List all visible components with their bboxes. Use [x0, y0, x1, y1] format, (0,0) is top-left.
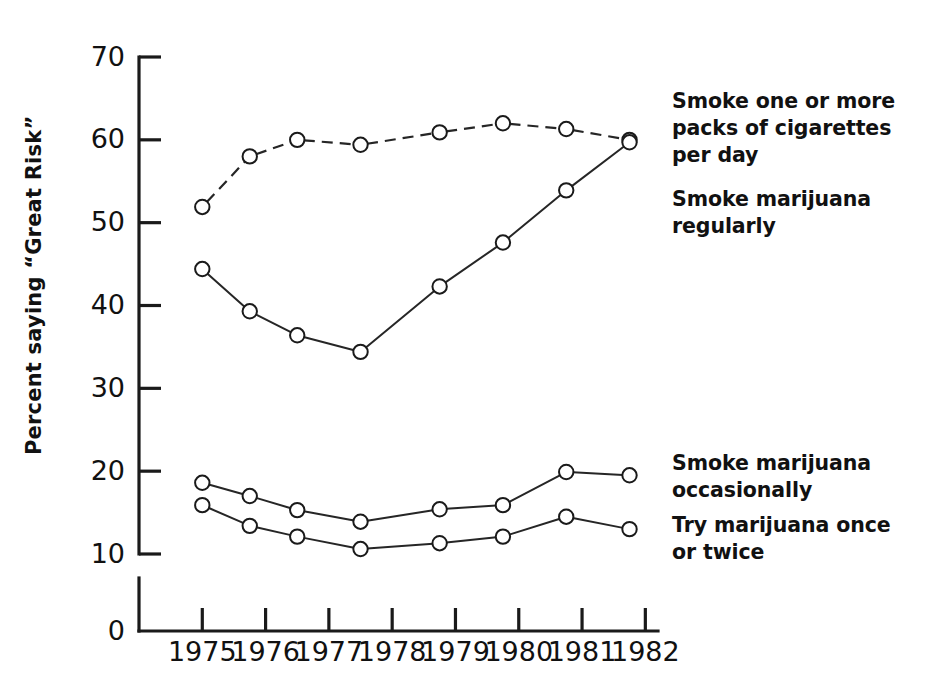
series-segment [367, 544, 433, 549]
series-segment [508, 195, 561, 239]
series-segment [256, 527, 291, 535]
y-axis-tick-label: 30 [91, 372, 125, 403]
series-segment [304, 511, 354, 520]
y-axis-tick-label: 10 [91, 538, 125, 569]
series-segment [256, 142, 291, 154]
x-axis-ticks: 19751976197719781979198019811982 [168, 608, 680, 667]
series-segment [367, 510, 433, 520]
data-point-marker [195, 262, 209, 276]
data-point-marker [243, 489, 257, 503]
data-point-marker [243, 149, 257, 163]
series-segment [573, 130, 623, 139]
legend-label-cigarettes: Smoke one or more packs of cigarettes pe… [672, 88, 922, 169]
data-point-marker [559, 465, 573, 479]
data-point-marker [432, 536, 446, 550]
series-segment [573, 472, 623, 475]
series-segment [366, 291, 435, 348]
series-segment [509, 519, 560, 535]
data-point-marker [290, 529, 304, 543]
data-point-marker [559, 122, 573, 136]
series-segment [207, 273, 245, 306]
series-segment [571, 146, 624, 186]
y-axis-tick-label: 50 [91, 206, 125, 237]
y-axis-tick-label: 70 [91, 41, 125, 72]
legend-label-marijuana-regularly: Smoke marijuana regularly [672, 186, 922, 240]
data-point-marker [496, 498, 510, 512]
data-point-marker [432, 279, 446, 293]
chart-figure: 010203040506070 197519761977197819791980… [0, 0, 929, 694]
y-axis-ticks: 010203040506070 [91, 41, 161, 646]
y-axis-tick-label: 60 [91, 123, 125, 154]
data-point-marker [243, 304, 257, 318]
x-axis-tick-label: 1980 [484, 636, 553, 667]
series-1 [195, 135, 637, 359]
data-point-marker [353, 514, 367, 528]
x-axis-tick-label: 1981 [548, 636, 617, 667]
series-segment [304, 538, 354, 548]
series-layer [195, 116, 637, 556]
x-axis-tick-label: 1977 [295, 636, 364, 667]
x-axis-tick-label: 1978 [358, 636, 427, 667]
series-segment [208, 508, 243, 523]
series-segment [256, 314, 292, 332]
legend-label-marijuana-try: Try marijuana once or twice [672, 512, 922, 566]
series-segment [304, 140, 354, 144]
data-point-marker [559, 510, 573, 524]
series-segment [209, 485, 244, 495]
series-0 [195, 116, 637, 214]
data-point-marker [496, 235, 510, 249]
data-point-marker [243, 519, 257, 533]
data-point-marker [496, 529, 510, 543]
data-point-marker [622, 468, 636, 482]
series-segment [207, 161, 245, 202]
series-segment [304, 337, 355, 350]
series-segment [446, 537, 496, 542]
data-point-marker [353, 138, 367, 152]
x-axis-tick-label: 1979 [421, 636, 490, 667]
series-segment [510, 124, 560, 129]
data-point-marker [195, 200, 209, 214]
y-axis-tick-label: 20 [91, 455, 125, 486]
series-segment [446, 506, 496, 509]
data-point-marker [559, 183, 573, 197]
data-point-marker [622, 522, 636, 536]
data-point-marker [290, 503, 304, 517]
series-segment [445, 246, 497, 282]
data-point-marker [195, 498, 209, 512]
data-point-marker [353, 345, 367, 359]
data-point-marker [290, 328, 304, 342]
data-point-marker [195, 476, 209, 490]
data-point-marker [432, 502, 446, 516]
legend-label-marijuana-occasionally: Smoke marijuana occasionally [672, 450, 922, 504]
y-axis-tick-label: 0 [108, 615, 125, 646]
series-segment [509, 475, 561, 502]
x-axis-tick-label: 1982 [611, 636, 680, 667]
data-point-marker [353, 542, 367, 556]
y-axis-title: Percent saying “Great Risk” [22, 116, 46, 455]
series-segment [367, 133, 433, 143]
x-axis-tick-label: 1975 [168, 636, 237, 667]
series-segment [256, 498, 291, 508]
series-segment [573, 518, 623, 528]
x-axis-tick-label: 1976 [231, 636, 300, 667]
data-point-marker [622, 135, 636, 149]
data-point-marker [290, 133, 304, 147]
data-point-marker [432, 125, 446, 139]
axes-group [139, 57, 658, 631]
series-3 [195, 498, 637, 556]
series-segment [446, 124, 496, 131]
y-axis-tick-label: 40 [91, 289, 125, 320]
data-point-marker [496, 116, 510, 130]
